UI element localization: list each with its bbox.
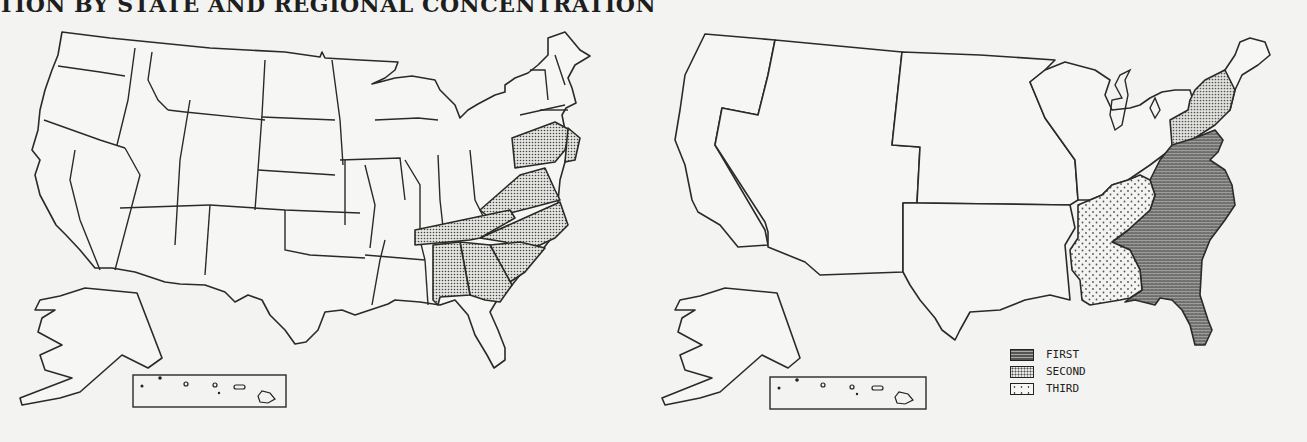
map-legend: FIRST SECOND THIRD [1010, 346, 1086, 397]
legend-item-third: THIRD [1010, 380, 1086, 397]
legend-item-second: SECOND [1010, 363, 1086, 380]
alaska [20, 288, 162, 405]
second-swatch-icon [1010, 366, 1034, 378]
hawaii-inset [133, 375, 286, 407]
hawaii-inset [770, 377, 926, 409]
legend-label: SECOND [1046, 365, 1086, 378]
state-map [0, 0, 650, 442]
state-new-jersey [565, 128, 580, 162]
legend-label: FIRST [1046, 348, 1079, 361]
first-swatch-icon [1010, 349, 1034, 361]
third-swatch-icon [1010, 383, 1034, 395]
legend-label: THIRD [1046, 382, 1079, 395]
legend-item-first: FIRST [1010, 346, 1086, 363]
region-west-south-central [903, 203, 1075, 340]
regional-map [650, 0, 1307, 442]
